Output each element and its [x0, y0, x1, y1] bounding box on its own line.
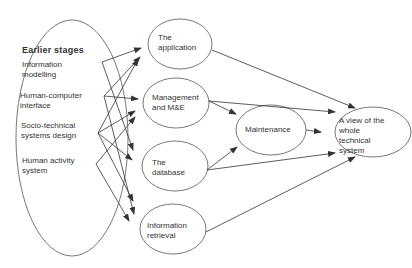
- node-the-application: The application: [158, 33, 196, 53]
- node-the-database: The database: [152, 158, 185, 178]
- arrow-im-to-app: [102, 48, 141, 62]
- label-line: system: [22, 166, 74, 176]
- label-line: Maintenance: [245, 125, 291, 135]
- label-line: technical: [339, 136, 384, 146]
- arrow-maint-to-view: [306, 130, 321, 132]
- label-line: system: [339, 146, 384, 156]
- label-line: systems design: [21, 131, 76, 141]
- label-line: Information: [22, 60, 62, 70]
- label-line: Human-computer: [20, 91, 82, 101]
- label-line: whole: [339, 126, 384, 136]
- label-line: Information: [147, 221, 187, 231]
- label-line: Socio-technical: [21, 121, 76, 131]
- node-management: Management and M&E: [152, 93, 199, 113]
- label-line: interface: [20, 101, 82, 111]
- earlier-stages-title: Earlier stages: [22, 45, 84, 55]
- arrow-app-to-view: [212, 50, 355, 108]
- label-line: Human activity: [22, 156, 74, 166]
- item-socio-technical-systems-design: Socio-technical systems design: [21, 121, 76, 141]
- label-line: database: [152, 168, 185, 178]
- label-line: The: [158, 33, 196, 43]
- label-line: application: [158, 43, 196, 53]
- label-line: retrieval: [147, 231, 187, 241]
- label-line: modelling: [22, 70, 62, 80]
- item-human-activity-system: Human activity system: [22, 156, 74, 176]
- label-line: The: [152, 158, 185, 168]
- arrow-ir-to-view: [206, 157, 355, 232]
- arrow-has-to-ir: [96, 164, 129, 221]
- node-view-of-whole-system: A view of the whole technical system: [339, 116, 384, 156]
- arrow-hci-to-mgmt: [104, 96, 138, 99]
- node-maintenance: Maintenance: [245, 125, 291, 135]
- arrow-hci-to-app: [104, 57, 140, 96]
- label-line: and M&E: [152, 103, 199, 113]
- item-information-modelling: Information modelling: [22, 60, 62, 80]
- node-information-retrieval: Information retrieval: [147, 221, 187, 241]
- item-human-computer-interface: Human-computer interface: [20, 91, 82, 111]
- label-line: A view of the: [339, 116, 384, 126]
- label-line: Management: [152, 93, 199, 103]
